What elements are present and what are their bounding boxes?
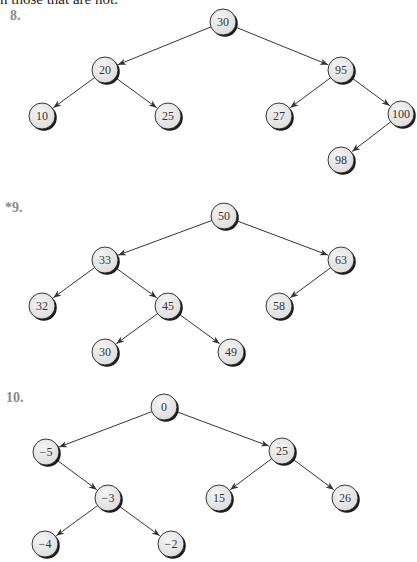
tree-node: 45 bbox=[155, 293, 183, 321]
node-value: 25 bbox=[162, 109, 174, 123]
node-value: −5 bbox=[40, 445, 53, 459]
node-value: 63 bbox=[335, 253, 347, 267]
tree-node: 58 bbox=[266, 293, 294, 321]
edge-arrow bbox=[176, 412, 269, 447]
edge-arrow bbox=[236, 221, 328, 255]
node-value: 100 bbox=[392, 107, 410, 121]
tree-node: −3 bbox=[95, 485, 123, 513]
tree-node: 26 bbox=[332, 485, 360, 513]
tree-node: 33 bbox=[92, 247, 120, 275]
edge-arrow bbox=[118, 506, 159, 536]
edge-arrow bbox=[53, 268, 94, 298]
tree-2: 5033324530496358 bbox=[29, 203, 356, 367]
tree-node: 32 bbox=[29, 293, 57, 321]
node-value: 33 bbox=[99, 253, 111, 267]
edge-arrow bbox=[59, 412, 152, 447]
tree-3: 0−5−3−4−2251526 bbox=[32, 394, 360, 559]
edge-arrow bbox=[292, 459, 333, 490]
node-value: −3 bbox=[102, 491, 115, 505]
edge-arrow bbox=[115, 268, 156, 298]
tree-node: 30 bbox=[92, 339, 120, 367]
node-value: 49 bbox=[225, 345, 237, 359]
node-value: 27 bbox=[273, 109, 285, 123]
edge-arrow bbox=[56, 506, 97, 536]
tree-node: 10 bbox=[29, 103, 57, 131]
tree-node: 0 bbox=[151, 394, 179, 422]
edge-arrow bbox=[351, 78, 389, 106]
tree-node: 63 bbox=[328, 247, 356, 275]
tree-node: 27 bbox=[266, 103, 294, 131]
tree-node: 49 bbox=[218, 339, 246, 367]
edge-arrow bbox=[56, 460, 96, 490]
tree-node: −4 bbox=[32, 531, 60, 559]
edge-arrow bbox=[230, 459, 271, 490]
edge-arrow bbox=[178, 314, 219, 344]
tree-node: 20 bbox=[92, 57, 120, 85]
node-value: 25 bbox=[276, 444, 288, 458]
node-value: −2 bbox=[165, 537, 178, 551]
tree-1: 30201025952710098 bbox=[29, 9, 416, 175]
node-value: −4 bbox=[39, 537, 52, 551]
node-value: 32 bbox=[36, 299, 48, 313]
node-value: 30 bbox=[217, 15, 229, 29]
edge-arrow bbox=[53, 78, 94, 108]
tree-node: 98 bbox=[328, 147, 356, 175]
edge-arrow bbox=[290, 268, 330, 298]
tree-node: 25 bbox=[155, 103, 183, 131]
tree-node: 100 bbox=[388, 101, 416, 129]
tree-node: 30 bbox=[210, 9, 238, 37]
node-value: 30 bbox=[99, 345, 111, 359]
edge-arrow bbox=[290, 78, 330, 108]
binary-tree-diagrams: 3020102595271009850333245304963580−5−3−4… bbox=[0, 0, 417, 562]
tree-node: 50 bbox=[211, 203, 239, 231]
node-value: 95 bbox=[335, 63, 347, 77]
node-value: 10 bbox=[36, 109, 48, 123]
tree-node: −5 bbox=[33, 439, 61, 467]
tree-node: 15 bbox=[206, 485, 234, 513]
node-value: 0 bbox=[161, 400, 167, 414]
node-value: 45 bbox=[162, 299, 174, 313]
edge-arrow bbox=[118, 221, 212, 256]
edge-arrow bbox=[352, 122, 391, 152]
edge-arrow bbox=[116, 314, 157, 344]
edge-arrow bbox=[235, 27, 328, 65]
node-value: 58 bbox=[273, 299, 285, 313]
tree-node: −2 bbox=[158, 531, 186, 559]
node-value: 20 bbox=[99, 63, 111, 77]
node-value: 26 bbox=[339, 491, 351, 505]
tree-node: 95 bbox=[328, 57, 356, 85]
edge-arrow bbox=[115, 78, 156, 108]
node-value: 50 bbox=[218, 209, 230, 223]
edge-arrow bbox=[118, 27, 211, 65]
node-value: 98 bbox=[335, 153, 347, 167]
node-value: 15 bbox=[213, 491, 225, 505]
tree-node: 25 bbox=[269, 438, 297, 466]
